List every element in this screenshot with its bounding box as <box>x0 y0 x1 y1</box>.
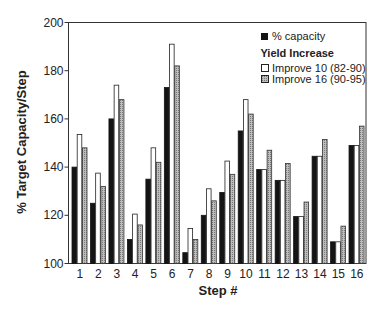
x-axis-title: Step # <box>198 283 238 298</box>
bar-white-step-7 <box>188 229 193 264</box>
bar-gray-step-9 <box>230 174 235 263</box>
x-tick-label: 15 <box>332 267 346 281</box>
legend-swatch-improve16 <box>262 76 269 83</box>
x-tick-label: 16 <box>350 267 364 281</box>
bar-white-step-1 <box>77 135 82 264</box>
x-tick-label: 13 <box>295 267 309 281</box>
bar-black-step-13 <box>294 217 299 264</box>
bar-white-step-3 <box>114 85 119 263</box>
legend-swatch-capacity <box>261 33 268 40</box>
bar-black-step-12 <box>275 180 280 263</box>
bar-gray-step-12 <box>286 163 291 263</box>
bar-black-step-1 <box>72 167 77 263</box>
bar-black-step-10 <box>238 131 243 264</box>
bar-white-step-12 <box>280 180 285 263</box>
bar-white-step-9 <box>225 161 230 263</box>
x-tick-label: 11 <box>258 267 271 281</box>
bar-black-step-6 <box>164 88 169 264</box>
bar-black-step-3 <box>109 119 114 264</box>
bar-white-step-16 <box>354 145 359 263</box>
x-tick-label: 6 <box>169 267 176 281</box>
bar-black-step-5 <box>146 179 151 263</box>
x-tick-label: 12 <box>276 267 290 281</box>
bar-black-step-11 <box>257 170 262 264</box>
x-tick-label: 2 <box>95 267 102 281</box>
x-tick-label: 4 <box>132 267 139 281</box>
bar-gray-step-10 <box>249 114 254 263</box>
bar-gray-step-16 <box>359 126 364 263</box>
bar-gray-step-3 <box>119 100 124 264</box>
bar-gray-step-6 <box>175 66 180 264</box>
y-tick-label: 100 <box>43 257 63 271</box>
bar-chart: 100120140160180200 123456789101112131415… <box>0 0 383 311</box>
bar-gray-step-4 <box>138 225 143 264</box>
bar-gray-step-14 <box>322 139 327 263</box>
bar-white-step-6 <box>170 44 175 263</box>
bar-gray-step-8 <box>212 201 217 264</box>
x-tick-label: 5 <box>150 267 157 281</box>
y-axis: 100120140160180200 <box>43 16 68 271</box>
legend-label-improve16: Improve 16 (90-95) <box>272 73 366 85</box>
bar-gray-step-13 <box>304 202 309 263</box>
bar-white-step-2 <box>96 173 101 263</box>
y-axis-title: % Target Capacity/Step <box>14 70 29 214</box>
bar-white-step-4 <box>133 214 138 263</box>
bar-gray-step-2 <box>101 186 106 263</box>
x-tick-label: 8 <box>206 267 213 281</box>
bar-white-step-15 <box>336 242 341 264</box>
x-tick-label: 3 <box>113 267 120 281</box>
x-tick-label: 10 <box>239 267 253 281</box>
bar-gray-step-7 <box>193 239 198 263</box>
bar-black-step-15 <box>331 242 336 264</box>
bar-black-step-4 <box>127 239 132 263</box>
bar-white-step-14 <box>317 156 322 263</box>
legend: % capacity Yield Increase Improve 10 (82… <box>260 30 365 85</box>
bar-gray-step-1 <box>82 148 87 264</box>
legend-swatch-improve10 <box>262 65 269 72</box>
bar-white-step-10 <box>243 100 248 264</box>
bar-white-step-13 <box>299 217 304 264</box>
legend-label-capacity: % capacity <box>272 30 326 42</box>
bar-black-step-14 <box>312 156 317 263</box>
y-tick-label: 200 <box>43 16 63 30</box>
bar-black-step-9 <box>220 192 225 263</box>
y-tick-label: 140 <box>43 160 63 174</box>
bar-black-step-7 <box>183 253 188 264</box>
y-tick-label: 120 <box>43 208 63 222</box>
bar-white-step-8 <box>206 189 211 264</box>
x-tick-label: 9 <box>224 267 231 281</box>
x-axis: 12345678910111213141516 <box>76 267 363 281</box>
bar-gray-step-5 <box>156 162 161 263</box>
y-tick-label: 180 <box>43 64 63 78</box>
bar-white-step-11 <box>262 170 267 264</box>
bar-black-step-8 <box>201 215 206 263</box>
y-tick-label: 160 <box>43 112 63 126</box>
bar-white-step-5 <box>151 148 156 264</box>
legend-header-yield-increase: Yield Increase <box>260 47 334 59</box>
x-tick-label: 1 <box>76 267 83 281</box>
x-tick-label: 7 <box>187 267 194 281</box>
bar-gray-step-11 <box>267 150 272 263</box>
x-tick-label: 14 <box>313 267 327 281</box>
bar-black-step-2 <box>90 203 95 263</box>
bar-black-step-16 <box>349 145 354 263</box>
bar-gray-step-15 <box>341 226 346 263</box>
